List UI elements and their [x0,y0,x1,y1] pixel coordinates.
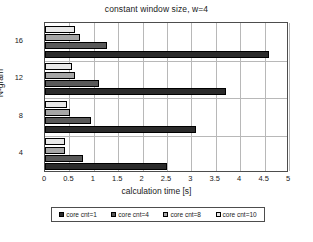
x-tick-label: 1 [81,174,105,183]
bar-core-cnt-8-n16 [45,34,80,41]
bar-core-cnt-4-n8 [45,117,91,124]
bar-core-cnt-4-n12 [45,80,99,87]
bar-core-cnt-4-n4 [45,155,83,162]
bar-core-cnt-10-n4 [45,138,65,145]
x-tick-label: 4.5 [252,174,276,183]
plot-area [44,22,288,172]
legend-label: core cnt=4 [118,211,149,218]
legend-swatch-icon [59,212,64,217]
chart-legend: core cnt=1core cnt=4core cnt=8core cnt=1… [51,207,265,222]
bar-core-cnt-8-n8 [45,109,70,116]
y-tick-label: 4 [0,148,23,157]
x-gridline [289,23,290,171]
x-tick-label: 3.5 [203,174,227,183]
y-tick-label: 12 [0,73,23,82]
bar-core-cnt-10-n12 [45,63,72,70]
bar-core-cnt-4-n16 [45,42,107,49]
legend-item[interactable]: core cnt=1 [59,211,97,218]
chart-figure: constant window size, w=4 N-gram calcula… [0,0,313,242]
legend-label: core cnt=8 [170,211,201,218]
legend-swatch-icon [163,212,168,217]
x-tick-label: 0 [32,174,56,183]
x-axis-label: calculation time [s] [0,186,313,196]
bar-core-cnt-1-n4 [45,163,167,170]
x-tick-label: 0.5 [56,174,80,183]
chart-title: constant window size, w=4 [0,4,313,14]
x-tick-label: 2.5 [154,174,178,183]
y-tick-label: 8 [0,111,23,120]
bar-core-cnt-1-n8 [45,126,196,133]
legend-item[interactable]: core cnt=4 [111,211,149,218]
x-tick-label: 2 [130,174,154,183]
bar-group-12 [45,61,287,99]
bar-group-16 [45,23,287,61]
legend-swatch-icon [111,212,116,217]
bar-group-8 [45,98,287,136]
bar-group-4 [45,136,287,174]
legend-label: core cnt=1 [66,211,97,218]
bar-core-cnt-8-n12 [45,72,75,79]
bar-core-cnt-10-n16 [45,26,75,33]
bar-core-cnt-10-n8 [45,101,67,108]
bar-core-cnt-1-n16 [45,51,269,58]
legend-label: core cnt=10 [223,211,257,218]
x-tick-label: 5 [276,174,300,183]
legend-item[interactable]: core cnt=10 [216,211,257,218]
x-tick-label: 3 [178,174,202,183]
x-tick-label: 4 [227,174,251,183]
legend-item[interactable]: core cnt=8 [163,211,201,218]
y-tick-label: 16 [0,36,23,45]
bar-core-cnt-1-n12 [45,88,226,95]
bar-core-cnt-8-n4 [45,147,65,154]
x-tick-label: 1.5 [105,174,129,183]
legend-swatch-icon [216,212,221,217]
